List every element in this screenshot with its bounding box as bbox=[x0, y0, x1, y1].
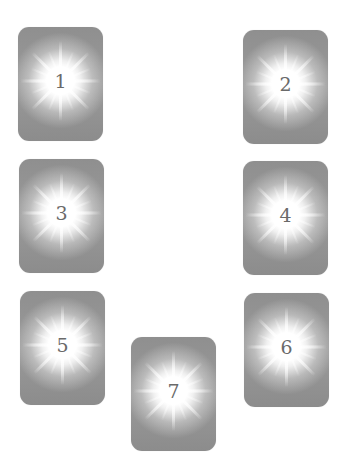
card-1[interactable]: 1 bbox=[18, 27, 103, 141]
card-7[interactable]: 7 bbox=[131, 337, 216, 451]
card-5[interactable]: 5 bbox=[20, 291, 105, 405]
card-number: 7 bbox=[131, 381, 216, 400]
card-number: 2 bbox=[243, 74, 328, 93]
card-2[interactable]: 2 bbox=[243, 30, 328, 144]
card-number: 4 bbox=[243, 205, 328, 224]
card-6[interactable]: 6 bbox=[244, 293, 329, 407]
card-4[interactable]: 4 bbox=[243, 161, 328, 275]
card-3[interactable]: 3 bbox=[19, 159, 104, 273]
card-number: 6 bbox=[244, 337, 329, 356]
card-number: 5 bbox=[20, 335, 105, 354]
card-number: 3 bbox=[19, 203, 104, 222]
card-number: 1 bbox=[18, 71, 103, 90]
